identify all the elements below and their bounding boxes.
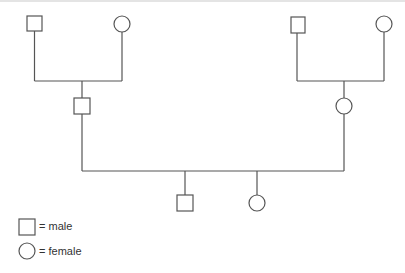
pedigree-chart: [0, 0, 405, 273]
father-symbol: [74, 98, 90, 114]
daughter-symbol: [249, 195, 265, 211]
legend-male-icon: [19, 219, 35, 235]
mother-symbol: [336, 98, 352, 114]
grandfather-paternal-symbol: [27, 16, 42, 31]
grandfather-maternal-symbol: [291, 17, 305, 33]
grandmother-maternal-symbol: [376, 16, 392, 32]
legend-male-label: = male: [39, 220, 72, 232]
grandmother-paternal-symbol: [114, 16, 130, 32]
legend-female-icon: [19, 243, 35, 259]
legend-female-label: = female: [39, 245, 82, 257]
son-symbol: [177, 195, 193, 211]
